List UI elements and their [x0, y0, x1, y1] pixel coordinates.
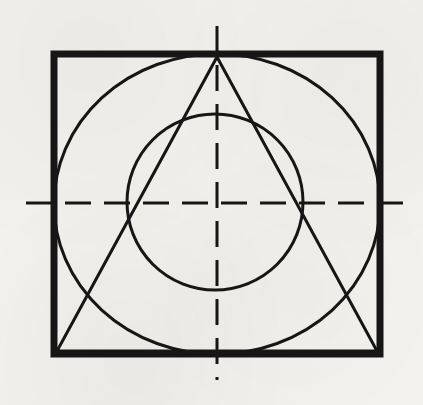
- diagram-canvas: [0, 0, 423, 405]
- geometric-construction-figure: [0, 0, 423, 405]
